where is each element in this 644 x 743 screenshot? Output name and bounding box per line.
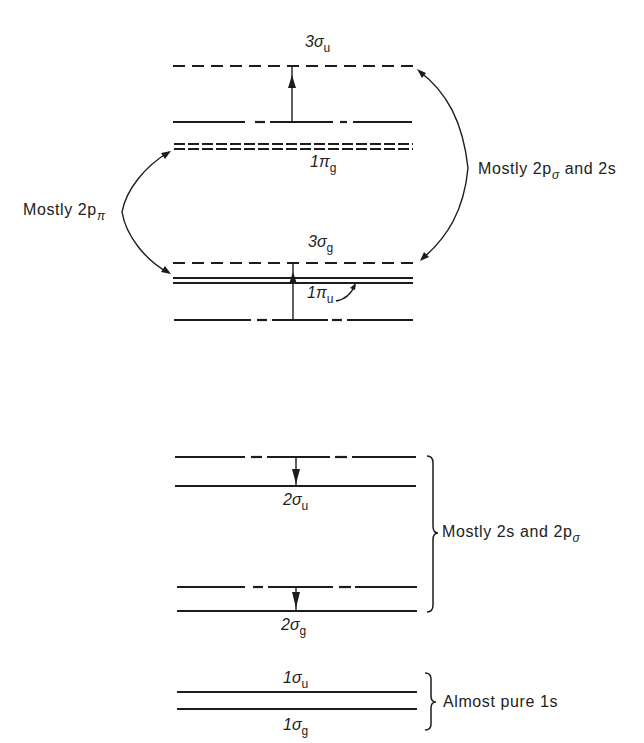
level-1sigma-u: 1σu: [177, 669, 417, 692]
label-main: 1π: [307, 284, 327, 301]
level-3sigma-g-reference-upper: [173, 66, 412, 122]
label-main: 3σ: [308, 233, 328, 250]
level-1pi-g: 1πg: [174, 144, 413, 175]
curved-arrow-icon: [417, 69, 468, 261]
annotation-main: Almost pure 1s: [443, 693, 558, 710]
label-main: 1σ: [283, 669, 303, 686]
label-subscript: u: [302, 677, 309, 691]
label-subscript: u: [327, 292, 334, 306]
level-3sigma-g: 3σg: [173, 233, 413, 263]
annotation-subscript: σ: [552, 168, 560, 182]
level-1sigma-g: 1σg: [177, 709, 417, 738]
arrow-up-icon: [288, 66, 296, 122]
label-main: 3σ: [305, 33, 325, 50]
label-main: 1π: [310, 153, 330, 170]
level-label-1pi-u: 1πu: [307, 284, 333, 306]
annotation-text: Mostly 2pπ: [23, 201, 106, 223]
level-2sigma-u-reference: [175, 457, 416, 486]
label-subscript: g: [327, 241, 334, 255]
annotation-mostly-2s-and-2p-sigma: Mostly 2s and 2pσ: [427, 456, 581, 612]
label-subscript: u: [324, 41, 331, 55]
curved-pointer-arrow-icon: [336, 283, 356, 301]
level-2sigma-u: 2σu: [175, 486, 416, 513]
level-label-1sigma-g: 1σg: [283, 716, 308, 738]
annotation-mostly-2p-pi: Mostly 2pπ: [23, 151, 171, 274]
curved-arrow-icon: [122, 151, 171, 274]
annotation-mostly-2p-sigma-and-2s: Mostly 2pσ and 2s: [417, 69, 616, 261]
level-3sigma-u: 3σu: [173, 33, 413, 66]
label-main: 1σ: [283, 716, 303, 733]
arrow-up-icon: [289, 263, 297, 320]
annotation-main: Mostly 2p: [23, 201, 97, 218]
brace-icon: [427, 456, 438, 612]
arrow-down-icon: [292, 457, 300, 486]
label-subscript: u: [302, 499, 309, 513]
label-subscript: g: [302, 724, 309, 738]
label-main: 2σ: [280, 616, 301, 633]
brace-icon: [425, 673, 436, 730]
annotation-main: Mostly 2s and 2p: [442, 523, 573, 540]
level-lower-dashdot-pi: [174, 263, 413, 320]
annotation-suffix: and 2s: [560, 160, 617, 177]
level-2sigma-g-reference: [177, 587, 417, 611]
annotation-main: Mostly 2p: [478, 160, 552, 177]
label-subscript: g: [330, 161, 337, 175]
level-label-2sigma-u: 2σu: [282, 491, 308, 513]
level-label-3sigma-u: 3σu: [305, 33, 330, 55]
label-main: 2σ: [282, 491, 303, 508]
level-label-1pi-g: 1πg: [310, 153, 336, 175]
annotation-subscript: σ: [573, 531, 581, 545]
level-label-3sigma-g: 3σg: [308, 233, 333, 255]
annotation-text: Almost pure 1s: [443, 693, 558, 710]
level-2sigma-g: 2σg: [177, 611, 417, 638]
label-subscript: g: [300, 624, 307, 638]
mo-energy-diagram: 3σu 1πg 3σg 1πu: [0, 0, 644, 743]
level-label-1sigma-u: 1σu: [283, 669, 308, 691]
annotation-almost-pure-1s: Almost pure 1s: [425, 673, 558, 730]
arrow-down-icon: [292, 587, 300, 611]
annotation-text: Mostly 2s and 2pσ: [442, 523, 581, 545]
annotation-text: Mostly 2pσ and 2s: [478, 160, 616, 182]
level-label-2sigma-g: 2σg: [280, 616, 306, 638]
annotation-subscript: π: [97, 209, 106, 223]
